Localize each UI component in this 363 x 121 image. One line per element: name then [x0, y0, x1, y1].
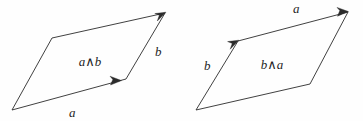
wedge-product-figure: a b a∧b b a b∧a [0, 0, 363, 121]
left-vector-a-arrowhead [110, 76, 122, 85]
right-wedge-label: b∧a [261, 57, 284, 72]
right-parallelogram-group: b a b∧a [196, 1, 349, 110]
left-parallelogram-group: a b a∧b [12, 12, 166, 120]
left-wedge-label: a∧b [79, 54, 102, 69]
figure-canvas: a b a∧b b a b∧a [0, 0, 363, 121]
left-vector-b-arrowhead [155, 12, 166, 21]
right-vector-b-label: b [204, 58, 211, 73]
left-vector-a-label: a [69, 105, 76, 120]
left-vector-b-label: b [155, 44, 162, 59]
right-vector-a-label: a [293, 1, 300, 16]
right-vector-b-arrowhead [228, 40, 239, 49]
